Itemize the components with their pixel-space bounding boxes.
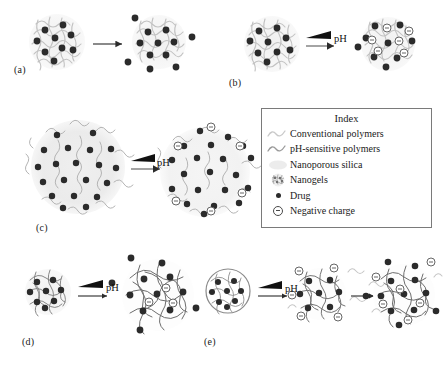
panel-a bbox=[29, 14, 195, 72]
legend-label: Conventional polymers bbox=[290, 129, 384, 139]
panel-e bbox=[206, 258, 442, 328]
legend-item-drug: Drug bbox=[262, 188, 431, 204]
ph-label-b: pH bbox=[334, 33, 347, 44]
panel-b-stage1-nanogel bbox=[244, 16, 300, 72]
panel-c-stage1-silica bbox=[25, 120, 134, 214]
nanogel-icon bbox=[266, 173, 290, 188]
panel-b-stage2-nanogel bbox=[355, 17, 416, 71]
panel-d-stage1-nanogel bbox=[25, 269, 71, 316]
index-title: Index bbox=[262, 113, 431, 124]
panel-label-a: (a) bbox=[14, 64, 26, 75]
drug-icon bbox=[266, 188, 290, 203]
legend-item-ph-sensitive-polymers: pH-sensitive polymers bbox=[262, 142, 431, 158]
legend-item-conventional-polymers: Conventional polymers bbox=[262, 126, 431, 142]
panel-a-stage1-nanogel bbox=[29, 14, 85, 70]
panel-e-stage2-nanogel bbox=[288, 264, 366, 322]
panel-c-stage2-silica bbox=[157, 123, 261, 217]
panel-e-ph-arrow bbox=[258, 281, 287, 296]
legend-item-nanoporous-silica: Nanoporous silica bbox=[262, 157, 431, 173]
panel-e-stage3-swollen bbox=[363, 258, 442, 328]
index-legend: Index Conventional polymers pH-sensitive… bbox=[261, 108, 432, 228]
panel-label-d: (d) bbox=[22, 336, 34, 347]
panel-b-ph-arrow bbox=[306, 31, 334, 46]
legend-label: Nanogels bbox=[290, 175, 328, 185]
panel-a-stage2-nanogel bbox=[125, 15, 196, 73]
legend-label: pH-sensitive polymers bbox=[290, 144, 380, 154]
panel-b bbox=[244, 16, 415, 72]
figure-canvas: pH pH pH pH (a) (b) (c) (d) (e) Index Co… bbox=[0, 0, 444, 366]
panel-label-c: (c) bbox=[36, 222, 48, 233]
ph-label-e: pH bbox=[285, 283, 298, 294]
legend-item-negative-charge: Negative charge bbox=[262, 204, 431, 220]
negative-charge-icon bbox=[266, 204, 290, 219]
panel-label-b: (b) bbox=[229, 77, 241, 88]
nanoporous-silica-icon bbox=[266, 157, 290, 172]
panel-d bbox=[25, 255, 199, 334]
panel-c-ph-arrow bbox=[131, 154, 160, 169]
legend-label: Negative charge bbox=[290, 206, 355, 216]
ph-label-d: pH bbox=[106, 282, 119, 293]
panel-e-stage1-encapsulated bbox=[206, 269, 250, 314]
panel-label-e: (e) bbox=[204, 336, 216, 347]
conventional-polymer-icon bbox=[266, 126, 290, 141]
ph-sensitive-polymer-icon bbox=[266, 142, 290, 157]
ph-label-c: pH bbox=[157, 157, 170, 168]
panel-d-stage2-swollen-nanogel bbox=[109, 255, 200, 334]
legend-label: Drug bbox=[290, 191, 311, 201]
panel-d-ph-arrow bbox=[78, 280, 107, 296]
legend-item-nanogels: Nanogels bbox=[262, 173, 431, 189]
legend-label: Nanoporous silica bbox=[290, 160, 363, 170]
panel-c bbox=[25, 120, 261, 217]
